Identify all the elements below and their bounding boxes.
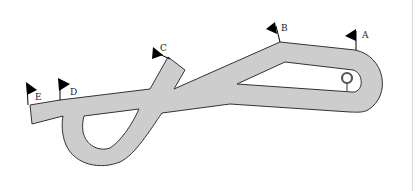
flag-d: D	[58, 78, 77, 100]
track-svg: A B C D E	[0, 0, 418, 191]
flag-a-label: A	[361, 30, 369, 40]
track-surface	[30, 42, 382, 166]
track	[30, 42, 382, 166]
flag-c: C	[152, 43, 170, 59]
flag-e-label: E	[35, 92, 42, 102]
flag-c-label: C	[160, 43, 167, 53]
flag-a: A	[345, 29, 369, 50]
flag-b: B	[266, 22, 288, 42]
flag-b-label: B	[281, 23, 288, 33]
track-diagram: A B C D E	[0, 0, 418, 191]
flag-d-label: D	[70, 87, 77, 97]
page-edge-line	[412, 0, 413, 191]
flag-e: E	[26, 82, 42, 105]
